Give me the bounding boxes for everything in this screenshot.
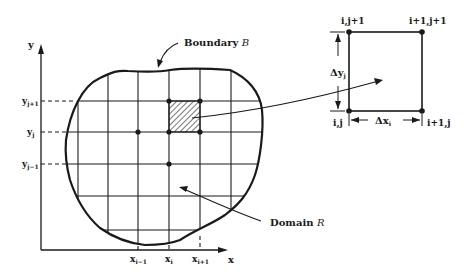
y-axis-label: y — [27, 39, 35, 50]
detail-cell-rect — [349, 32, 422, 111]
corner-label-bottom-right: i+1,j — [427, 118, 451, 129]
delta-y-label: Δyj — [330, 67, 346, 80]
boundary-arrow-icon — [157, 59, 163, 68]
hatched-cell — [169, 101, 200, 132]
x-tick-i-minus-1: xi−1 — [130, 254, 147, 265]
x-axis-label: x — [228, 254, 235, 265]
detail-arrow-icon — [374, 78, 383, 85]
boundary-leader — [160, 43, 178, 62]
corner-label-top-right: i+1,j+1 — [409, 16, 446, 27]
x-axis-arrow-icon — [218, 247, 228, 253]
delta-x-label: Δxi — [375, 115, 392, 127]
y-axis-arrow-icon — [38, 44, 44, 54]
x-tick-i: xi — [165, 254, 173, 265]
mesh-grid — [50, 60, 270, 260]
boundary-curve — [66, 69, 263, 246]
y-tick-j-plus-1: yj+1 — [21, 96, 39, 108]
boundary-label: Boundary B — [184, 37, 249, 48]
corner-label-bottom-left: i,j — [333, 118, 343, 129]
corner-label-top-left: i,j+1 — [341, 16, 365, 27]
domain-label: Domain R — [270, 217, 325, 228]
grid-diagram: y x yj+1 yj yj−1 xi−1 xi xi+1 Boundary B… — [0, 0, 465, 278]
x-tick-i-plus-1: xi+1 — [192, 254, 209, 265]
y-tick-j: yj — [26, 127, 34, 139]
y-tick-j-minus-1: yj−1 — [21, 159, 39, 171]
domain-arrow-icon — [179, 186, 188, 192]
